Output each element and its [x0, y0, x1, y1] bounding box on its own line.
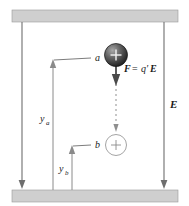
label-point-a: a [95, 52, 100, 63]
dimension-arrow-ya [50, 59, 56, 190]
ghost-charge-b [106, 135, 127, 156]
label-field-E: E [169, 98, 177, 110]
label-height-yb: y b [58, 163, 69, 177]
label-force-field: E [149, 63, 157, 74]
leader-line-b [73, 145, 91, 146]
label-force-charge: q′ [141, 63, 149, 74]
label-ya-subscript: a [46, 119, 50, 127]
label-yb-symbol: y [58, 163, 64, 174]
label-force: F = q′ E [123, 63, 157, 74]
electric-field-figure: a b F = q′ E E y a y b [0, 0, 189, 206]
leader-line-a [54, 58, 91, 60]
figure-canvas: a b F = q′ E E y a y b [0, 0, 189, 206]
field-line-left [19, 22, 26, 189]
label-point-b: b [95, 139, 100, 150]
top-plate [12, 10, 178, 22]
bottom-plate [12, 190, 178, 202]
label-force-equals: = [132, 63, 138, 74]
label-force-symbol: F [123, 63, 131, 74]
motion-trail [113, 84, 118, 132]
dimension-arrow-yb [69, 145, 75, 190]
field-line-right [161, 22, 168, 189]
label-ya-symbol: y [39, 113, 45, 124]
label-height-ya: y a [39, 113, 50, 127]
label-yb-subscript: b [65, 169, 69, 177]
plus-sign-ghost [111, 140, 121, 150]
